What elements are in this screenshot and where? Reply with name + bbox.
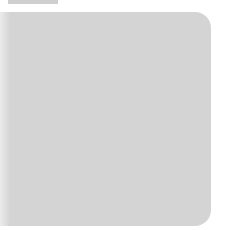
board-grid <box>0 0 227 230</box>
